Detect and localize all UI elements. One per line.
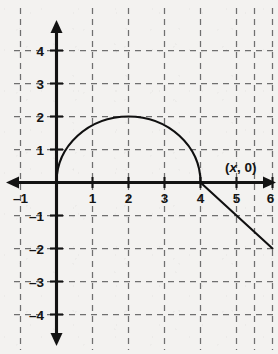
y-label-4: 4	[36, 44, 44, 59]
y-axis-arrow-up	[51, 20, 63, 33]
vertical-gridlines	[21, 8, 273, 350]
x-label-2: 2	[125, 191, 133, 206]
x-label-4: 4	[197, 191, 205, 206]
x-axis-tick-labels: –1 1 2 3 4 5 6	[13, 191, 275, 206]
y-axis-arrow-down	[51, 333, 63, 346]
x-label-6: 6	[267, 191, 275, 206]
point-annotation-x-0: (x, 0)	[225, 160, 257, 175]
coordinate-plane-plot: 4 3 2 1 –1 –2 –3 –4 –1 1 2 3 4 5 6 (x, 0…	[0, 0, 278, 354]
y-label--2: –2	[29, 242, 44, 257]
x-label-1: 1	[89, 191, 97, 206]
x-axis-arrow-left	[6, 177, 19, 189]
y-label--3: –3	[29, 275, 45, 290]
y-label-3: 3	[36, 77, 44, 92]
y-label--1: –1	[29, 209, 45, 224]
x-label-5: 5	[233, 191, 241, 206]
x-axis-arrow-right	[263, 177, 276, 189]
graph-figure: 4 3 2 1 –1 –2 –3 –4 –1 1 2 3 4 5 6 (x, 0…	[0, 0, 278, 354]
annotation-italic-x: x	[229, 160, 238, 175]
x-label--1: –1	[13, 191, 29, 206]
y-label-1: 1	[36, 143, 44, 158]
y-label--4: –4	[29, 308, 45, 323]
x-label-3: 3	[161, 191, 169, 206]
y-label-2: 2	[36, 110, 44, 125]
